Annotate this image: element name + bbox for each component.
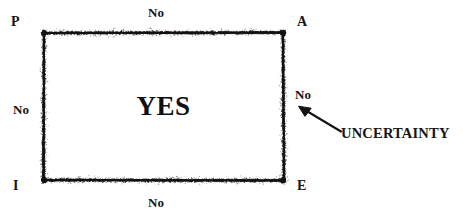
uncertainty-label: UNCERTAINTY <box>341 126 450 141</box>
fuzzy-boundary-rectangle <box>0 0 463 222</box>
arrow-head <box>299 106 312 116</box>
uncertainty-arrow <box>0 0 463 222</box>
edge-label-no-left: No <box>13 103 29 116</box>
corner-label-p: P <box>11 15 20 29</box>
corner-label-i: I <box>13 179 18 193</box>
edge-label-no-right: No <box>295 88 311 101</box>
corner-label-a: A <box>297 15 307 29</box>
arrow-shaft <box>305 110 341 132</box>
center-label-yes: YES <box>136 91 190 122</box>
center-region: YES <box>44 33 283 180</box>
corner-label-e: E <box>297 179 306 193</box>
edge-label-no-top: No <box>148 6 164 19</box>
edge-label-no-bottom: No <box>148 196 164 209</box>
diagram-canvas: P A I E No No No No YES UNCERTAINTY <box>0 0 463 222</box>
